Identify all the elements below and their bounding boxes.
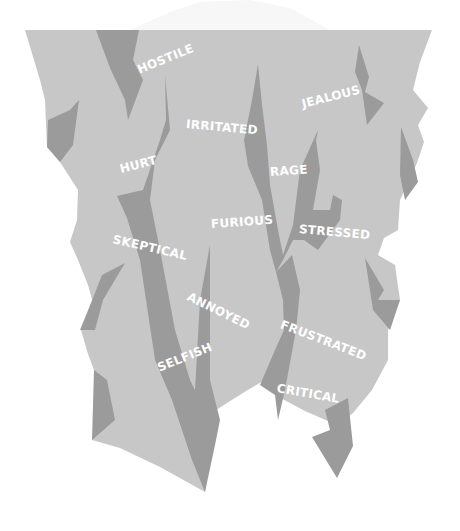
label-rage: RAGE (270, 163, 309, 178)
iceberg-diagram (0, 0, 460, 531)
iceberg-tip (130, 0, 330, 30)
